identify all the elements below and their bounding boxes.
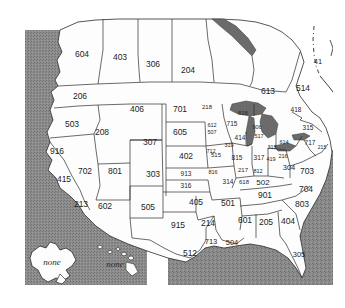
area-code-label: 703 (300, 166, 314, 176)
area-code-label: 314 (223, 178, 234, 185)
area-code-label: 613 (261, 86, 275, 96)
area-code-label: 501 (221, 198, 235, 208)
area-code-label: 216 (278, 153, 287, 159)
alaska-none-label: none (43, 257, 61, 267)
area-code-label: 803 (295, 199, 309, 209)
area-code-label: 316 (181, 182, 192, 189)
hawaii-none-label: none (106, 259, 124, 269)
area-code-label: 812 (253, 168, 262, 174)
area-code-label: 512 (183, 248, 197, 258)
area-code-label: 303 (146, 169, 160, 179)
area-code-label: 517 (254, 133, 263, 139)
area-code-label: 315 (303, 124, 314, 131)
area-code-label: 713 (205, 237, 218, 246)
area-code-label: 206 (73, 91, 87, 101)
area-code-label: 406 (130, 104, 144, 114)
area-code-label: 614 (279, 139, 288, 145)
area-code-label: 304 (283, 163, 296, 172)
area-code-label: 715 (227, 120, 238, 127)
area-code-label: 415 (57, 174, 71, 184)
area-code-label: 915 (171, 220, 185, 230)
area-code-label: 605 (173, 127, 187, 137)
area-code-label: 414 (235, 134, 246, 141)
area-code-label: 604 (75, 49, 89, 59)
area-code-label: 616 (238, 110, 249, 116)
area-code-label: 218 (202, 104, 213, 110)
area-code-label: 313 (267, 144, 276, 150)
area-code-label: 215 (318, 144, 327, 150)
area-code-label: 701 (173, 104, 187, 114)
area-code-label: 419 (266, 156, 275, 162)
area-code-label: 507 (207, 129, 216, 135)
area-code-label: 307 (143, 137, 157, 147)
area-code-label: 418 (291, 106, 302, 113)
area-code-label: 815 (232, 154, 243, 161)
area-code-label: 405 (189, 197, 203, 207)
area-code-label: 801 (108, 166, 122, 176)
area-code-label: 41 (314, 57, 322, 66)
area-code-label: 618 (239, 179, 250, 185)
area-code-label: 515 (211, 152, 222, 158)
area-code-label: 317 (254, 154, 265, 161)
area-code-label: 717 (305, 139, 316, 146)
area-code-label: 901 (258, 190, 272, 200)
area-code-label: 204 (181, 65, 195, 75)
map-canvas: 6044033062046135144120650391641521320870… (0, 0, 345, 308)
area-code-label: 404 (281, 216, 295, 226)
area-code-label: 403 (113, 52, 127, 62)
area-code-label: 602 (98, 201, 112, 211)
area-code-label: 319 (224, 142, 233, 148)
area-code-label: 205 (259, 217, 273, 227)
area-code-label: 702 (78, 166, 92, 176)
area-code-label: 916 (50, 146, 64, 156)
area-code-label: 906 (252, 124, 261, 130)
area-code-label: 208 (95, 127, 109, 137)
area-code-label: 601 (238, 215, 252, 225)
area-code-label: 913 (181, 170, 192, 177)
area-code-label: 514 (296, 83, 310, 93)
area-code-label: 217 (238, 167, 249, 173)
area-code-label: 704 (299, 184, 313, 194)
area-code-label: 503 (65, 119, 79, 129)
area-code-label: 816 (208, 169, 217, 175)
area-code-label: 306 (146, 59, 160, 69)
area-code-label: 612 (207, 122, 216, 128)
area-code-map-figure: 6044033062046135144120650391641521320870… (0, 0, 345, 308)
area-code-label: 305 (293, 250, 306, 259)
area-code-label: 504 (226, 238, 239, 247)
area-code-label: 505 (141, 202, 155, 212)
area-code-label: 214 (201, 218, 215, 228)
area-code-label: 502 (256, 178, 270, 187)
area-code-label: 402 (179, 151, 193, 161)
area-code-label: 213 (74, 199, 88, 209)
